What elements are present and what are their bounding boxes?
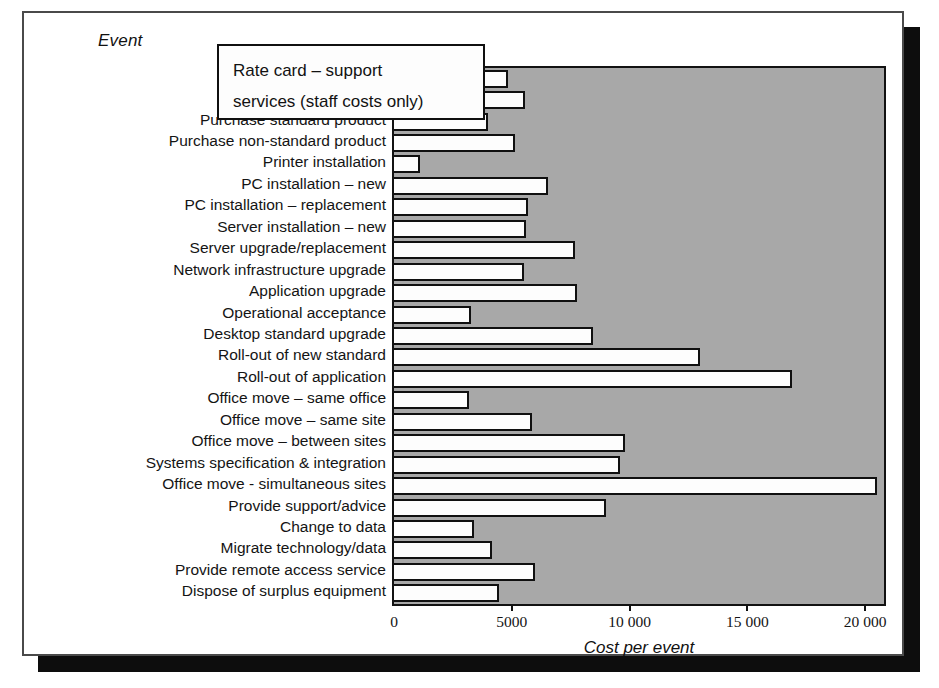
plot-area: [392, 66, 886, 606]
bar-fill: [394, 348, 700, 366]
category-label: Application upgrade: [86, 283, 386, 299]
bar-11: [394, 284, 577, 302]
category-label: Provide remote access service: [86, 562, 386, 578]
bar-18: [394, 434, 625, 452]
x-tick-mark: [511, 606, 513, 611]
category-label: Office move – same site: [86, 412, 386, 428]
x-tick-label: 0: [390, 613, 398, 631]
bar-5: [394, 155, 420, 173]
bar-fill: [394, 306, 471, 324]
y-axis-title: Event: [98, 31, 142, 51]
bar-12: [394, 306, 471, 324]
category-label: Office move – same office: [86, 390, 386, 406]
bar-fill: [394, 370, 792, 388]
bar-4: [394, 134, 515, 152]
category-label: Network infrastructure upgrade: [86, 262, 386, 278]
callout-box: Rate card – support services (staff cost…: [217, 44, 485, 120]
bar-20: [394, 477, 877, 495]
category-label: PC installation – replacement: [86, 197, 386, 213]
category-label: Dispose of surplus equipment: [86, 583, 386, 599]
category-label: PC installation – new: [86, 176, 386, 192]
x-tick-label: 15 000: [726, 613, 769, 631]
bar-fill: [394, 177, 548, 195]
x-tick-mark: [746, 606, 748, 611]
category-label: Migrate technology/data: [86, 540, 386, 556]
bar-22: [394, 520, 474, 538]
category-label: Printer installation: [86, 154, 386, 170]
bar-10: [394, 263, 524, 281]
bar-7: [394, 198, 528, 216]
bar-fill: [394, 563, 535, 581]
bar-fill: [394, 541, 492, 559]
bar-8: [394, 220, 526, 238]
category-label-column: Technical investigationTechnical reviewP…: [82, 66, 386, 606]
category-label: Roll-out of new standard: [86, 347, 386, 363]
x-tick-mark: [864, 606, 866, 611]
category-label: Desktop standard upgrade: [86, 326, 386, 342]
category-label: Server upgrade/replacement: [86, 240, 386, 256]
bar-13: [394, 327, 593, 345]
x-tick-label: 5000: [496, 613, 527, 631]
bar-15: [394, 370, 792, 388]
x-tick-mark: [629, 606, 631, 611]
bar-fill: [394, 155, 420, 173]
plot-inner: [394, 68, 884, 604]
category-label: Server installation – new: [86, 219, 386, 235]
bar-fill: [394, 499, 606, 517]
bar-25: [394, 584, 499, 602]
bar-fill: [394, 456, 620, 474]
x-axis-title: Cost per event: [392, 638, 886, 658]
x-tick-label: 10 000: [608, 613, 651, 631]
bar-14: [394, 348, 700, 366]
category-label: Provide support/advice: [86, 498, 386, 514]
bar-fill: [394, 391, 469, 409]
category-label: Roll-out of application: [86, 369, 386, 385]
bar-21: [394, 499, 606, 517]
category-label: Operational acceptance: [86, 305, 386, 321]
bar-9: [394, 241, 575, 259]
x-tick-label: 20 000: [844, 613, 887, 631]
bar-fill: [394, 198, 528, 216]
bar-fill: [394, 327, 593, 345]
bar-fill: [394, 584, 499, 602]
bar-fill: [394, 284, 577, 302]
bar-17: [394, 413, 532, 431]
category-label: Systems specification & integration: [86, 455, 386, 471]
bar-19: [394, 456, 620, 474]
bar-fill: [394, 241, 575, 259]
bar-24: [394, 563, 535, 581]
figure-frame: Event Technical investigationTechnical r…: [22, 11, 904, 656]
bar-fill: [394, 220, 526, 238]
bar-fill: [394, 134, 515, 152]
category-label: Office move – between sites: [86, 433, 386, 449]
bar-fill: [394, 434, 625, 452]
callout-line-2: services (staff costs only): [233, 86, 469, 117]
bar-fill: [394, 520, 474, 538]
bar-6: [394, 177, 548, 195]
bar-fill: [394, 263, 524, 281]
category-label: Purchase non-standard product: [86, 133, 386, 149]
bar-fill: [394, 413, 532, 431]
bar-16: [394, 391, 469, 409]
bar-23: [394, 541, 492, 559]
category-label: Office move - simultaneous sites: [86, 476, 386, 492]
bar-fill: [394, 477, 877, 495]
callout-line-1: Rate card – support: [233, 55, 469, 86]
category-label: Change to data: [86, 519, 386, 535]
